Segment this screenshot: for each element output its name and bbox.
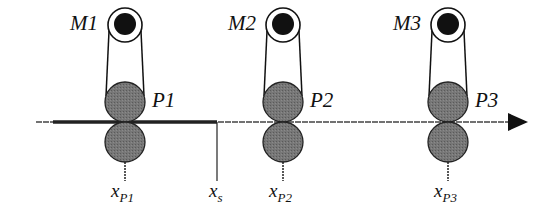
position-label-xp1: xP1 bbox=[111, 180, 134, 206]
direction-arrow-icon bbox=[508, 113, 528, 131]
unit-1 bbox=[105, 8, 145, 181]
unit-3 bbox=[428, 8, 468, 181]
position-label-xp2: xP2 bbox=[269, 180, 292, 206]
roller-p1-lower bbox=[105, 122, 145, 162]
diagram-canvas: M1 M2 M3 P1 P2 P3 xP1 xs xP2 xP3 bbox=[0, 0, 559, 208]
motor-label-m1: M1 bbox=[70, 11, 98, 36]
roller-p3-lower bbox=[428, 122, 468, 162]
roller-label-p2: P2 bbox=[310, 88, 333, 113]
position-label-xp3: xP3 bbox=[434, 180, 457, 206]
roller-label-p3: P3 bbox=[475, 88, 498, 113]
roller-p3-upper bbox=[428, 82, 468, 122]
motor-label-m3: M3 bbox=[393, 11, 421, 36]
unit-2 bbox=[263, 8, 303, 181]
motor-label-m2: M2 bbox=[228, 11, 256, 36]
roller-p2-upper bbox=[263, 82, 303, 122]
roller-p2-lower bbox=[263, 122, 303, 162]
roller-label-p1: P1 bbox=[152, 88, 175, 113]
splice-label-xs: xs bbox=[209, 180, 223, 206]
roller-p1-upper bbox=[105, 82, 145, 122]
